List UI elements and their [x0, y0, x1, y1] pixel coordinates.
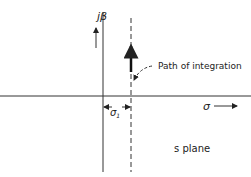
imaginary-axis-label: jβ [95, 10, 107, 23]
path-label-leader [134, 66, 152, 80]
path-of-integration-label: Path of integration [158, 61, 242, 71]
real-axis-label: σ [203, 100, 211, 113]
offset-label: σ1 [110, 107, 120, 119]
s-plane-diagram: jβ Path of integration σ σ1 s plane [0, 0, 251, 177]
plane-label: s plane [174, 143, 210, 154]
